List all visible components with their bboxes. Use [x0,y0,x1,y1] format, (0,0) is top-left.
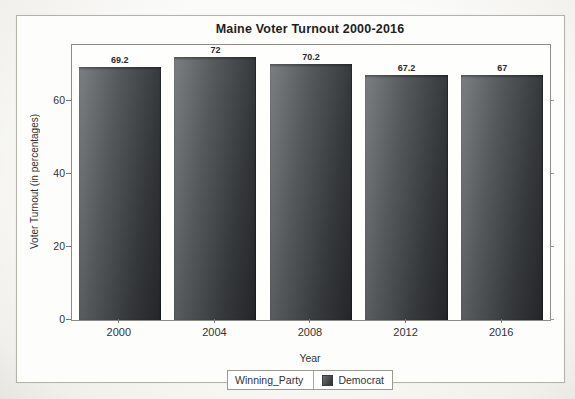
bar-2016 [461,75,543,320]
bar-value-label: 67 [497,63,507,73]
x-axis-title: Year [71,352,549,364]
y-tick-label: 0 [17,313,65,325]
bar-value-label: 72 [210,45,220,55]
x-category-label: 2012 [393,326,417,338]
bar-2004 [174,57,256,320]
y-tick-mark [550,246,554,247]
y-tick-mark [66,100,71,101]
x-category-2008: 2008 [262,319,358,338]
x-category-label: 2008 [298,326,322,338]
bar-value-label: 70.2 [302,52,320,62]
x-category-2004: 2004 [167,319,263,338]
x-tick-mark [309,319,310,323]
chart-figure: Maine Voter Turnout 2000-2016 Voter Turn… [16,15,565,383]
y-tick-mark [66,246,71,247]
y-axis-tick-labels: 0204060 [17,44,65,319]
x-category-label: 2000 [107,326,131,338]
x-category-2000: 2000 [71,319,167,338]
bar-slot-2008: 70.2 [263,45,359,320]
y-tick-mark [550,173,554,174]
scanned-page-background: Maine Voter Turnout 2000-2016 Voter Turn… [0,0,575,399]
bar-slot-2012: 67.2 [359,45,455,320]
x-category-2012: 2012 [358,319,454,338]
legend-entry-democrat: Democrat [314,371,392,389]
y-tick-mark [550,100,554,101]
legend: Winning_Party Democrat [227,370,393,390]
legend-label: Winning_Party [228,371,314,389]
bar-slot-2004: 72 [168,45,264,320]
y-tick-label: 20 [17,240,65,252]
x-category-2016: 2016 [453,319,549,338]
legend-row: Winning_Party Democrat [71,370,549,390]
x-tick-mark [118,319,119,323]
legend-entry-label: Democrat [338,374,384,386]
legend-swatch-icon [322,375,333,386]
x-tick-mark [405,319,406,323]
chart-title: Maine Voter Turnout 2000-2016 [71,22,549,36]
bar-slot-2016: 67 [454,45,550,320]
x-category-label: 2016 [489,326,513,338]
y-tick-label: 60 [17,94,65,106]
y-tick-mark [550,319,554,320]
bar-slot-2000: 69.2 [72,45,168,320]
bar-2000 [79,67,161,320]
plot-area: 69.27270.267.267 [71,44,551,321]
x-tick-mark [501,319,502,323]
bar-2008 [270,64,352,320]
bar-2012 [365,75,447,320]
x-tick-mark [214,319,215,323]
bar-value-label: 67.2 [398,63,416,73]
x-axis-tick-labels: 20002004200820122016 [71,319,549,338]
bar-value-label: 69.2 [111,55,129,65]
y-tick-label: 40 [17,167,65,179]
x-category-label: 2004 [202,326,226,338]
y-tick-mark [66,173,71,174]
